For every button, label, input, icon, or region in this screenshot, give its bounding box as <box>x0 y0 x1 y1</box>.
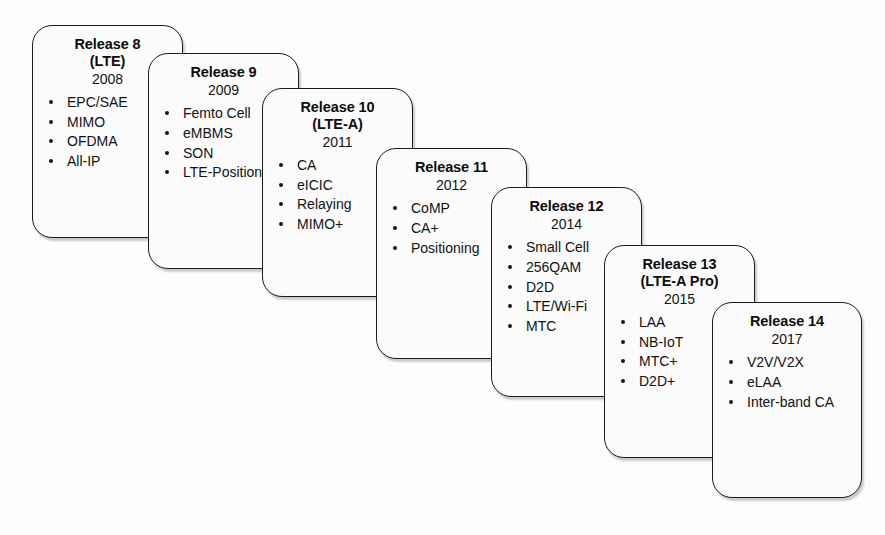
bullet-icon <box>621 359 625 363</box>
release-title: Release 9 <box>155 64 292 81</box>
feature-label: LAA <box>639 314 665 330</box>
feature-label: MIMO+ <box>297 216 343 232</box>
feature-label: D2D+ <box>639 373 675 389</box>
release-title: Release 12 <box>498 198 635 215</box>
bullet-icon <box>165 111 169 115</box>
feature-label: eMBMS <box>183 125 233 141</box>
figure-caption <box>14 521 444 533</box>
feature-label: Femto Cell <box>183 105 251 121</box>
bullet-icon <box>508 304 512 308</box>
feature-label: eICIC <box>297 177 333 193</box>
bullet-icon <box>279 202 283 206</box>
bullet-icon <box>49 139 53 143</box>
bullet-icon <box>508 245 512 249</box>
release-title: Release 8 <box>39 36 176 53</box>
bullet-icon <box>393 226 397 230</box>
bullet-icon <box>49 120 53 124</box>
release-box-header: Release 13(LTE-A Pro)2015 <box>611 256 748 307</box>
feature-label: CoMP <box>411 200 450 216</box>
feature-label: CA+ <box>411 220 439 236</box>
feature-label: All-IP <box>67 153 100 169</box>
bullet-icon <box>621 340 625 344</box>
bullet-icon <box>729 360 733 364</box>
release-year: 2011 <box>269 134 406 150</box>
bullet-icon <box>165 151 169 155</box>
bullet-icon <box>279 222 283 226</box>
release-box-header: Release 122014 <box>498 198 635 232</box>
feature-label: NB-IoT <box>639 334 683 350</box>
feature-label: 256QAM <box>526 259 581 275</box>
release-box-7: Release 142017V2V/V2XeLAAInter-band CA <box>712 302 862 498</box>
feature-label: D2D <box>526 279 554 295</box>
bullet-icon <box>393 246 397 250</box>
bullet-icon <box>49 159 53 163</box>
feature-label: MIMO <box>67 114 105 130</box>
feature-label: Inter-band CA <box>747 394 834 410</box>
bullet-icon <box>729 380 733 384</box>
release-title: Release 10 <box>269 99 406 116</box>
lte-release-roadmap-diagram: Release 8(LTE)2008EPC/SAEMIMOOFDMAAll-IP… <box>0 0 885 535</box>
bullet-icon <box>621 320 625 324</box>
feature-label: SON <box>183 145 213 161</box>
release-year: 2017 <box>719 331 855 347</box>
release-box-header: Release 112012 <box>383 159 520 193</box>
release-box-header: Release 10(LTE-A)2011 <box>269 99 406 150</box>
feature-label: LTE/Wi-Fi <box>526 298 587 314</box>
feature-label: MTC <box>526 318 556 334</box>
release-year: 2014 <box>498 216 635 232</box>
bullet-icon <box>729 400 733 404</box>
feature-label: Relaying <box>297 196 351 212</box>
feature-list: V2V/V2XeLAAInter-band CA <box>719 353 855 411</box>
release-subtitle: (LTE-A) <box>269 116 406 133</box>
release-title: Release 11 <box>383 159 520 176</box>
bullet-icon <box>165 170 169 174</box>
feature-label: Positioning <box>411 240 480 256</box>
bullet-icon <box>621 379 625 383</box>
release-box-header: Release 142017 <box>719 313 855 347</box>
bullet-icon <box>279 163 283 167</box>
bullet-icon <box>279 183 283 187</box>
feature-item: eLAA <box>725 373 855 392</box>
release-title: Release 13 <box>611 256 748 273</box>
bullet-icon <box>393 206 397 210</box>
release-subtitle: (LTE-A Pro) <box>611 273 748 290</box>
feature-label: OFDMA <box>67 133 118 149</box>
bullet-icon <box>508 324 512 328</box>
bullet-icon <box>508 285 512 289</box>
feature-label: EPC/SAE <box>67 94 128 110</box>
feature-label: CA <box>297 157 316 173</box>
bullet-icon <box>508 265 512 269</box>
feature-label: V2V/V2X <box>747 354 804 370</box>
feature-label: Small Cell <box>526 239 589 255</box>
release-title: Release 14 <box>719 313 855 330</box>
feature-item: V2V/V2X <box>725 353 855 372</box>
bullet-icon <box>165 131 169 135</box>
feature-label: MTC+ <box>639 353 678 369</box>
bullet-icon <box>49 100 53 104</box>
feature-label: eLAA <box>747 374 781 390</box>
feature-item: Inter-band CA <box>725 393 855 412</box>
